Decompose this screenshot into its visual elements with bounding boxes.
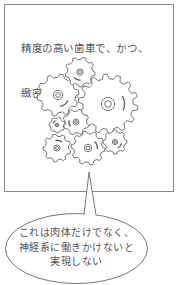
speech-bubble-text: これは肉体だけでなく、 神経系に働きかけないと 実現しない (5, 226, 148, 270)
bubble-line-2: 神経系に働きかけないと (5, 241, 148, 256)
bubble-line-3: 実現しない (5, 255, 148, 270)
gear-shape (65, 57, 95, 87)
bubble-line-1: これは肉体だけでなく、 (5, 226, 148, 241)
gear-shape (103, 130, 127, 154)
gear-shape (71, 131, 105, 165)
gear-shape (43, 134, 71, 162)
gear-cluster (37, 57, 138, 165)
gear-shape (49, 117, 65, 133)
